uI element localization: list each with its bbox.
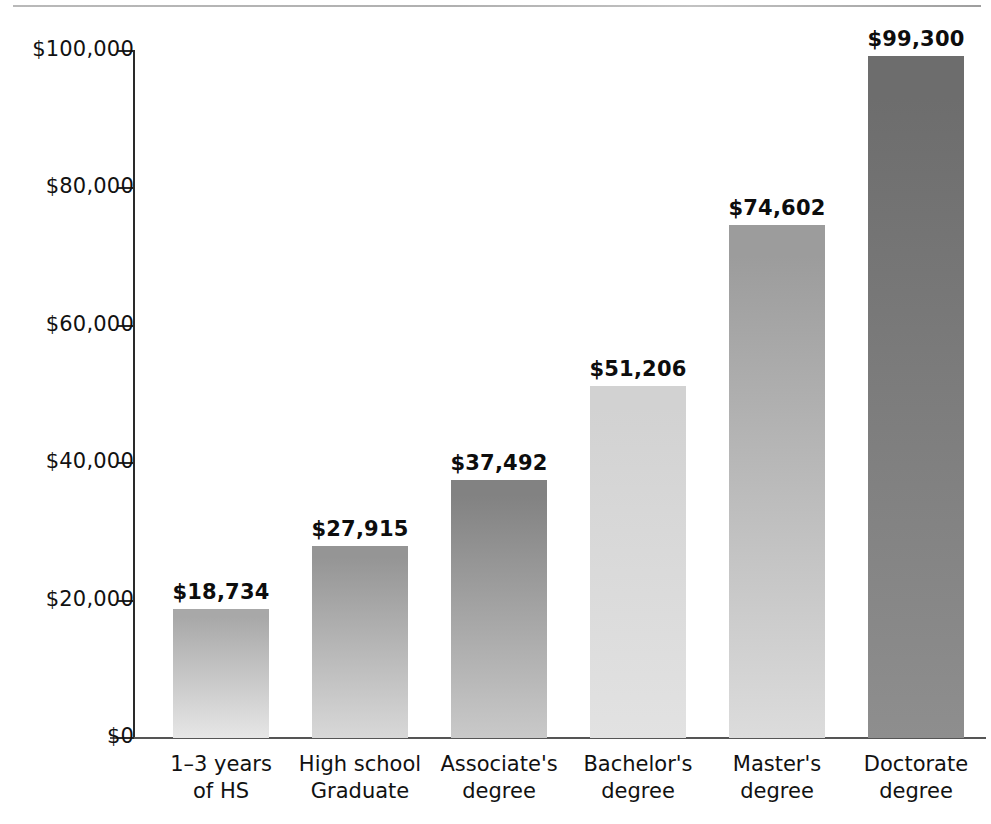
x-axis-category-label-line: High school <box>299 752 421 776</box>
y-axis-tick-label: $0 <box>22 724 134 748</box>
x-axis-category-label: High schoolGraduate <box>291 751 429 805</box>
x-axis-category-label-line: Master's <box>733 752 821 776</box>
bar-value-label: $74,602 <box>728 196 825 220</box>
bar-value-label: $18,734 <box>172 580 269 604</box>
x-axis-category-label-line: Associate's <box>440 752 557 776</box>
x-axis-category-label-line: Bachelor's <box>583 752 692 776</box>
bar: $74,602 <box>729 225 825 738</box>
x-axis-category-label-line: degree <box>708 778 846 805</box>
x-axis-category-label: Doctoratedegree <box>847 751 985 805</box>
x-axis-category-label-line: degree <box>569 778 707 805</box>
bar: $27,915 <box>312 546 408 738</box>
y-axis-tick-label: $40,000 <box>22 449 134 473</box>
bar-chart: $0$20,000$40,000$60,000$80,000$100,000 $… <box>0 0 991 824</box>
bar: $99,300 <box>868 56 964 738</box>
bar-value-label: $99,300 <box>867 27 964 51</box>
x-axis-category-label: Bachelor'sdegree <box>569 751 707 805</box>
bar: $18,734 <box>173 609 269 738</box>
x-axis-category-label-line: degree <box>847 778 985 805</box>
x-axis-category-label-line: Graduate <box>291 778 429 805</box>
x-axis-category-label: 1–3 yearsof HS <box>152 751 290 805</box>
y-axis-tick-label: $60,000 <box>22 312 134 336</box>
bar: $51,206 <box>590 386 686 738</box>
x-axis-category-label-line: Doctorate <box>864 752 968 776</box>
bar-value-label: $37,492 <box>450 451 547 475</box>
x-axis-category-label-line: of HS <box>152 778 290 805</box>
y-axis-tick-label: $100,000 <box>22 37 134 61</box>
bar-value-label: $51,206 <box>589 357 686 381</box>
y-axis-tick-label: $80,000 <box>22 174 134 198</box>
x-axis-category-label: Master'sdegree <box>708 751 846 805</box>
x-axis-category-label: Associate'sdegree <box>430 751 568 805</box>
x-axis-category-label-line: degree <box>430 778 568 805</box>
x-axis-category-label-line: 1–3 years <box>170 752 272 776</box>
bar: $37,492 <box>451 480 547 738</box>
top-divider-rule <box>13 5 981 7</box>
y-axis-tick-label: $20,000 <box>22 587 134 611</box>
bar-value-label: $27,915 <box>311 517 408 541</box>
y-axis-line <box>133 50 135 739</box>
